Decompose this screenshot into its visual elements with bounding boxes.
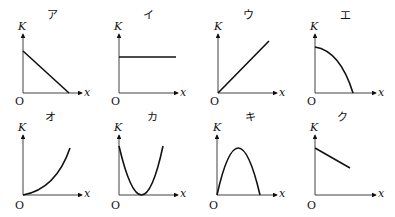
x-axis-label: x xyxy=(180,87,186,98)
x-axis-label: x xyxy=(84,188,90,199)
graph-ki: キ K O x xyxy=(196,106,294,214)
origin-label: O xyxy=(111,200,120,211)
origin-label: O xyxy=(307,200,316,211)
graph-ku: ク K O x xyxy=(292,106,390,214)
x-axis-label: x xyxy=(378,87,384,98)
x-axis-label: x xyxy=(180,188,186,199)
origin-label: O xyxy=(209,200,218,211)
origin-label: O xyxy=(15,200,24,211)
graph-u: ウ K O x xyxy=(196,0,294,108)
graph-o: オ K O x xyxy=(0,106,98,214)
x-axis-label: x xyxy=(84,87,90,98)
x-axis-label: x xyxy=(279,87,285,98)
graph-i: イ K O x xyxy=(96,0,194,108)
graph-ka: カ K O x xyxy=(96,106,194,214)
graph-a: ア K O x xyxy=(0,0,98,108)
graph-e: エ K O x xyxy=(292,0,390,108)
x-axis-label: x xyxy=(378,188,384,199)
x-axis-label: x xyxy=(279,188,285,199)
